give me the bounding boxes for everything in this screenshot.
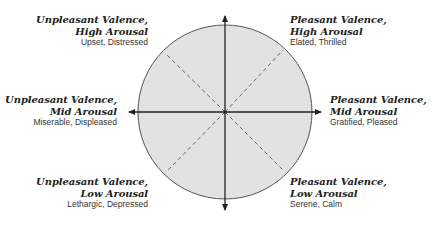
quadrant-title: Low Arousal [36,188,148,200]
quadrant-title: High Arousal [36,26,148,38]
label-unpleasant-high-arousal: Unpleasant Valence, High Arousal Upset, … [36,14,148,48]
quadrant-title: Mid Arousal [5,106,117,118]
label-pleasant-mid-arousal: Pleasant Valence, Mid Arousal Gratified,… [330,94,427,128]
quadrant-title: Mid Arousal [330,106,427,118]
quadrant-title: High Arousal [290,26,387,38]
quadrant-title: Pleasant Valence, [290,14,387,26]
quadrant-examples: Gratified, Pleased [330,118,427,128]
origin-dot [224,111,227,114]
quadrant-title: Unpleasant Valence, [36,176,148,188]
quadrant-examples: Upset, Distressed [36,38,148,48]
label-unpleasant-mid-arousal: Unpleasant Valence, Mid Arousal Miserabl… [5,94,117,128]
quadrant-examples: Elated, Thrilled [290,38,387,48]
quadrant-examples: Lethargic, Depressed [36,200,148,210]
label-unpleasant-low-arousal: Unpleasant Valence, Low Arousal Lethargi… [36,176,148,210]
quadrant-examples: Serene, Calm [290,200,387,210]
circumplex-diagram: Unpleasant Valence, High Arousal Upset, … [0,0,436,229]
label-pleasant-high-arousal: Pleasant Valence, High Arousal Elated, T… [290,14,387,48]
quadrant-title: Unpleasant Valence, [36,14,148,26]
quadrant-examples: Miserable, Displeased [5,118,117,128]
quadrant-title: Unpleasant Valence, [5,94,117,106]
label-pleasant-low-arousal: Pleasant Valence, Low Arousal Serene, Ca… [290,176,387,210]
quadrant-title: Pleasant Valence, [330,94,427,106]
quadrant-title: Pleasant Valence, [290,176,387,188]
quadrant-title: Low Arousal [290,188,387,200]
